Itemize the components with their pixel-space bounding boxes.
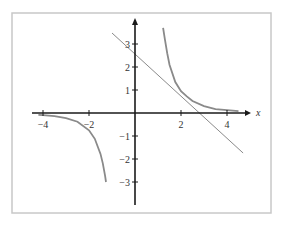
y-tick-label: −1 xyxy=(119,131,130,142)
plot-area xyxy=(38,28,243,182)
x-tick-label: 2 xyxy=(179,119,184,130)
x-tick-label: 4 xyxy=(225,119,230,130)
y-axis-arrow-icon xyxy=(132,18,138,25)
x-tick-label: −4 xyxy=(38,119,49,130)
curve-left-branch xyxy=(38,115,106,182)
x-tick-label: −2 xyxy=(84,119,95,130)
x-axis-arrow-icon xyxy=(245,110,251,116)
chart: −4−224−3−2−1123x xyxy=(0,0,284,225)
y-tick-label: 1 xyxy=(125,85,130,96)
y-tick-label: 3 xyxy=(125,39,130,50)
tangent-line xyxy=(112,33,243,153)
axes xyxy=(32,18,251,205)
y-tick-label: −2 xyxy=(119,154,130,165)
y-tick-label: 2 xyxy=(125,62,130,73)
x-axis-label: x xyxy=(255,107,261,118)
curve-right-branch xyxy=(163,28,238,111)
y-tick-label: −3 xyxy=(119,177,130,188)
